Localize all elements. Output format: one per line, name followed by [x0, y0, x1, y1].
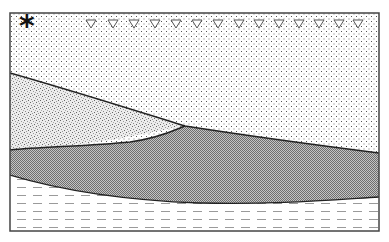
asterisk-marker-icon: * — [19, 11, 35, 41]
geological-cross-section — [0, 0, 389, 242]
